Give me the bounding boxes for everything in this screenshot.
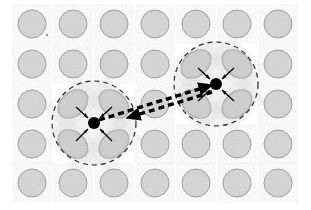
atom-r3-c0 [18,130,46,158]
atom-r0-c6 [264,10,292,38]
diagram-canvas [0,0,311,210]
atom-r0-c4 [182,10,210,38]
polaron-left-charge-dot [88,117,100,129]
atom-r4-c2 [100,169,128,197]
atom-r1-c6 [264,50,292,78]
atom-r1-c2 [100,50,128,78]
atom-r0-c1 [59,10,87,38]
atom-r4-c0 [18,169,46,197]
atom-r4-c3 [141,169,169,197]
atom-r1-c0 [18,50,46,78]
atom-r4-c1 [59,169,87,197]
atom-r3-c4 [182,130,210,158]
atom-r3-c6 [264,130,292,158]
atom-r3-c3 [141,130,169,158]
atom-r1-c3 [141,50,169,78]
speck-group [46,34,48,36]
atom-r4-c5 [223,169,251,197]
atom-r1-c1 [59,50,87,78]
atom-r3-c5 [223,130,251,158]
atom-r2-c6 [264,90,292,118]
image-speck [46,34,48,36]
atom-r0-c3 [141,10,169,38]
atom-r0-c2 [100,10,128,38]
atom-r0-c0 [18,10,46,38]
atom-r4-c6 [264,169,292,197]
polaron-right-charge-dot [210,78,222,90]
atom-r0-c5 [223,10,251,38]
polaron-lattice-figure [0,0,311,210]
atom-r2-c0 [18,90,46,118]
atom-r4-c4 [182,169,210,197]
